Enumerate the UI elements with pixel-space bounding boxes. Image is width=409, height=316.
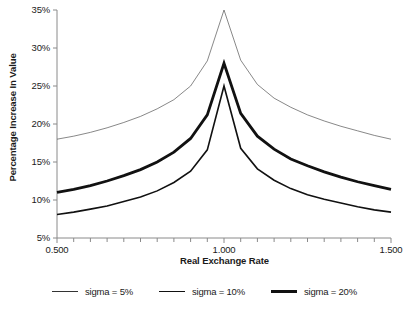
y-tick-label: 25% (14, 80, 50, 91)
chart-figure: Percentage Increase In Value Real Exchan… (0, 0, 409, 316)
legend-item-label: sigma = 5% (85, 286, 133, 297)
legend-line-swatch (52, 291, 78, 292)
y-tick-label: 15% (14, 156, 50, 167)
y-tick-label: 20% (14, 118, 50, 129)
line-chart-plot (0, 0, 409, 316)
legend-item-0[interactable]: sigma = 5% (52, 286, 133, 297)
chart-axes (53, 10, 391, 243)
x-tick-label: 0.500 (27, 244, 87, 255)
x-tick-label: 1.000 (194, 244, 254, 255)
chart-series (57, 10, 391, 214)
y-tick-label: 10% (14, 194, 50, 205)
y-tick-label: 30% (14, 42, 50, 53)
legend-line-swatch (159, 291, 185, 292)
y-tick-label: 35% (14, 4, 50, 15)
legend-item-2[interactable]: sigma = 20% (271, 286, 357, 297)
x-axis-title: Real Exchange Rate (40, 255, 409, 266)
chart-legend: sigma = 5%sigma = 10%sigma = 20% (0, 286, 409, 297)
y-tick-label: 5% (14, 232, 50, 243)
legend-item-1[interactable]: sigma = 10% (159, 286, 245, 297)
legend-item-label: sigma = 10% (192, 286, 245, 297)
series-line-1 (57, 86, 391, 214)
legend-item-label: sigma = 20% (304, 286, 357, 297)
legend-line-swatch (271, 290, 297, 293)
x-tick-label: 1.500 (361, 244, 409, 255)
series-line-0 (57, 10, 391, 139)
